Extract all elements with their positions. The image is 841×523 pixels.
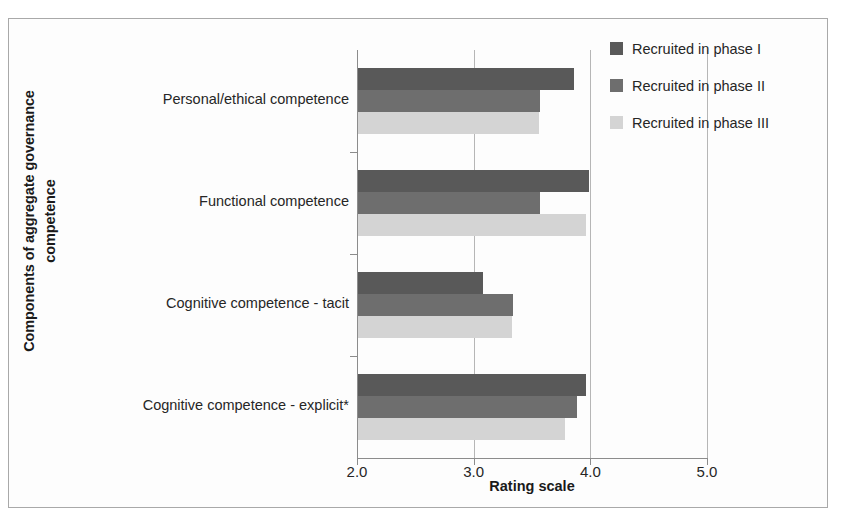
legend-item[interactable]: Recruited in phase II [610,67,825,104]
chart-legend: Recruited in phase IRecruited in phase I… [610,30,825,141]
y-axis-tick-label: Functional competence [9,193,349,209]
bar [358,214,586,236]
x-axis-line [357,458,707,459]
legend-label: Recruited in phase III [632,115,769,131]
bar [358,396,577,418]
legend-swatch-icon [610,116,623,129]
legend-label: Recruited in phase I [632,41,761,57]
legend-swatch-icon [610,79,623,92]
y-axis-tick [350,254,357,255]
x-axis-title: Rating scale [357,478,707,494]
bar [358,374,586,396]
legend-item[interactable]: Recruited in phase III [610,104,825,141]
legend-swatch-icon [610,42,623,55]
gridline [590,50,591,458]
bar [358,112,539,134]
y-axis-tick-labels: Personal/ethical competenceFunctional co… [8,50,349,458]
bar [358,316,512,338]
y-axis-tick [350,356,357,357]
bar [358,294,513,316]
legend-label: Recruited in phase II [632,78,765,94]
y-axis-tick [350,152,357,153]
bar [358,68,574,90]
y-axis-tick-label: Personal/ethical competence [9,91,349,107]
bar [358,192,540,214]
bar [358,170,589,192]
bar [358,272,483,294]
y-axis-tick-label: Cognitive competence - tacit [9,295,349,311]
legend-item[interactable]: Recruited in phase I [610,30,825,67]
y-axis-tick-label: Cognitive competence - explicit* [9,397,349,413]
bar [358,418,565,440]
chart-figure: Components of aggregate governance compe… [0,0,841,523]
bar [358,90,540,112]
